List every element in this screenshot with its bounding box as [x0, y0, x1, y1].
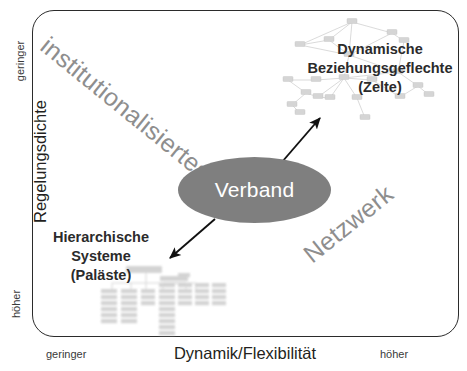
center-node-verband[interactable]: Verband	[178, 157, 331, 223]
y-axis-top-end-label: geringer	[14, 31, 26, 91]
center-node-label: Verband	[215, 178, 295, 202]
quadrant-label-palaeste: Hierarchische Systeme (Paläste)	[34, 228, 168, 285]
quadrant-palaeste-line1: Hierarchische	[34, 228, 168, 247]
quadrant-zelte-line2: Beziehungsgeflechte	[296, 59, 464, 78]
x-axis-title: Dynamik/Flexibilität	[150, 344, 340, 363]
quadrant-label-zelte: Dynamische Beziehungsgeflechte (Zelte)	[296, 40, 464, 97]
x-axis-left-end-label: geringer	[46, 348, 86, 360]
quadrant-palaeste-line3: (Paläste)	[34, 266, 168, 285]
quadrant-palaeste-line2: Systeme	[34, 247, 168, 266]
arrow-to-palaeste	[170, 219, 215, 258]
quadrant-zelte-line1: Dynamische	[296, 40, 464, 59]
y-axis-title: Regelungsdichte	[31, 82, 50, 242]
quadrant-zelte-line3: (Zelte)	[296, 78, 464, 97]
x-axis-right-end-label: höher	[380, 348, 408, 360]
diagram-canvas: institutionalisiertes Netzwerk Verband D…	[0, 0, 467, 371]
arrow-to-zelte	[282, 118, 320, 162]
y-axis-bottom-end-label: höher	[10, 274, 22, 334]
